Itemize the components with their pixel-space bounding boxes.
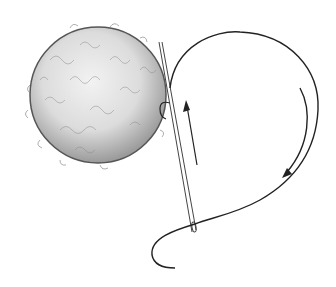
up-arrow-icon [183, 100, 197, 165]
curved-arrow-icon [282, 88, 307, 178]
illustration [0, 0, 336, 287]
thread [152, 32, 318, 268]
pompom-ball [26, 24, 171, 169]
needle [159, 42, 197, 232]
drawing-canvas [0, 0, 336, 287]
